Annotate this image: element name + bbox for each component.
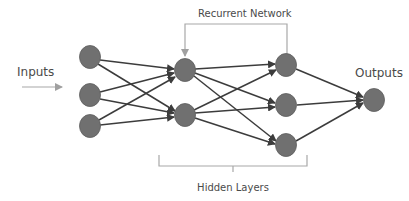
edges-hidden2-to-output: [296, 69, 363, 141]
input-layer: [80, 46, 101, 138]
hidden1-node-2: [175, 104, 196, 127]
hidden1-node-1: [175, 59, 196, 82]
edges-input-to-hidden1: [98, 60, 175, 125]
hidden-layers-bracket: [159, 155, 307, 172]
hidden2-node-3: [276, 134, 297, 157]
neural-network-diagram: Inputs Outputs Recurrent Network Hidden …: [0, 0, 409, 201]
output-node: [364, 89, 385, 112]
hidden2-node-1: [276, 54, 297, 77]
hidden2-node-2: [276, 94, 297, 117]
outputs-label: Outputs: [355, 66, 403, 80]
inputs-label: Inputs: [17, 65, 54, 79]
hidden-layers-label: Hidden Layers: [197, 182, 269, 193]
hidden-layer-2: [276, 54, 297, 157]
output-layer: [364, 89, 385, 112]
input-node-1: [80, 46, 101, 69]
input-node-3: [80, 115, 101, 138]
hidden-layer-1: [175, 59, 196, 127]
edges-hidden1-to-hidden2: [194, 64, 276, 144]
recurrent-feedback-loop: [185, 24, 287, 56]
input-node-2: [80, 84, 101, 107]
recurrent-network-label: Recurrent Network: [198, 8, 292, 19]
